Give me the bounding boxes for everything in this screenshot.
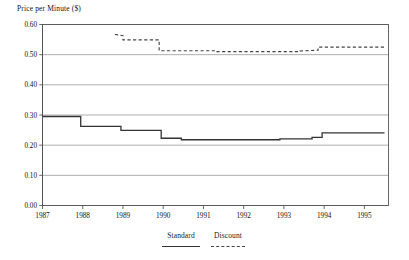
x-axis-tick-label: 1995 (357, 212, 372, 220)
y-axis-tick-label: 0.30 (24, 112, 37, 120)
series-line-discount (115, 34, 385, 51)
x-axis-tick-label: 1990 (156, 212, 171, 220)
legend-label-discount: Discount (209, 231, 247, 240)
y-axis-tick-label: 0.40 (24, 81, 37, 89)
y-axis-tick-label: 0.00 (24, 202, 37, 210)
legend-label-standard: Standard (162, 231, 200, 240)
x-axis-tick-label: 1994 (317, 212, 332, 220)
solid-line-swatch (162, 246, 200, 247)
legend-key-standard (162, 244, 200, 250)
chart-legend: Standard Discount (0, 231, 409, 250)
chart-container: Price per Minute ($) 0.600.500.400.300.2… (0, 0, 409, 260)
x-axis-tick-label: 1991 (196, 212, 211, 220)
x-axis-tick-label: 1992 (236, 212, 251, 220)
series-line-standard (43, 117, 385, 140)
chart-plot-area: 0.600.500.400.300.200.100.00198719881989… (0, 0, 409, 260)
x-axis-tick-label: 1993 (277, 212, 292, 220)
x-axis-tick-label: 1989 (116, 212, 131, 220)
y-axis-tick-label: 0.10 (24, 172, 37, 180)
x-axis-tick-label: 1987 (35, 212, 50, 220)
dashed-line-swatch (211, 246, 245, 247)
legend-key-discount (209, 244, 247, 250)
y-axis-tick-label: 0.20 (24, 142, 37, 150)
y-axis-tick-label: 0.60 (24, 21, 37, 29)
y-axis-tick-label: 0.50 (24, 51, 37, 59)
x-axis-tick-label: 1988 (76, 212, 91, 220)
